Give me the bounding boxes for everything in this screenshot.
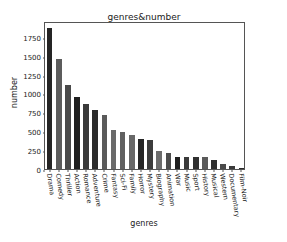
x-tick-label: Crime	[100, 173, 109, 193]
y-tick-label: 1500	[15, 54, 41, 62]
x-tick-mark	[204, 169, 205, 172]
y-tick-label: 250	[15, 148, 41, 156]
x-tick-mark	[122, 169, 123, 172]
y-tick-label: 1750	[15, 35, 41, 43]
y-tick-label: 1000	[15, 91, 41, 99]
y-tick-mark	[43, 38, 46, 39]
bar-horror	[138, 139, 144, 169]
x-tick-mark	[177, 169, 178, 172]
x-tick-mark	[186, 169, 187, 172]
x-tick-label: Sport	[192, 173, 201, 191]
x-tick-label: Drama	[45, 173, 54, 196]
x-tick-mark	[168, 169, 169, 172]
bar-comedy	[56, 59, 62, 169]
bar-crime	[102, 115, 108, 169]
y-tick-label: 1250	[15, 73, 41, 81]
bar-biography	[156, 151, 162, 169]
y-tick-mark	[43, 114, 46, 115]
x-tick-mark	[113, 169, 114, 172]
chart-page: ‍ ‍ ‍ ‍ ‍ genres&number number 025050075…	[0, 0, 287, 242]
bar-adventure	[92, 110, 98, 169]
x-tick-label: Film-Noir	[237, 173, 247, 202]
x-tick-mark	[232, 169, 233, 172]
plot-area: 02505007501000125015001750DramaComedyThr…	[45, 23, 244, 169]
x-tick-mark	[131, 169, 132, 172]
x-tick-mark	[67, 169, 68, 172]
bar-music	[184, 157, 190, 169]
bar-animation	[166, 153, 172, 169]
chart-title: genres&number	[44, 12, 244, 22]
bar-drama	[47, 28, 53, 169]
y-tick-label: 0	[15, 167, 41, 175]
x-tick-label: Sci-Fi	[118, 173, 127, 191]
bar-family	[129, 135, 135, 169]
bar-mystery	[147, 140, 153, 169]
x-tick-mark	[195, 169, 196, 172]
bar-romance	[83, 104, 89, 169]
bar-thriller	[65, 85, 71, 169]
x-tick-label: War	[173, 173, 181, 186]
x-tick-mark	[223, 169, 224, 172]
bar-sci-fi	[120, 132, 126, 169]
y-tick-mark	[43, 171, 46, 172]
bar-war	[175, 157, 181, 169]
y-tick-mark	[43, 76, 46, 77]
x-tick-mark	[76, 169, 77, 172]
x-tick-mark	[159, 169, 160, 172]
bar-sport	[193, 157, 199, 169]
bar-action	[74, 97, 80, 169]
y-tick-label: 500	[15, 129, 41, 137]
y-tick-mark	[43, 57, 46, 58]
x-tick-mark	[95, 169, 96, 172]
x-tick-mark	[86, 169, 87, 172]
x-tick-label: Music	[182, 173, 191, 192]
y-tick-mark	[43, 152, 46, 153]
x-tick-mark	[241, 169, 242, 172]
x-tick-mark	[104, 169, 105, 172]
bar-musical	[211, 160, 217, 169]
x-tick-mark	[49, 169, 50, 172]
plot-axes: 02505007501000125015001750DramaComedyThr…	[44, 22, 245, 170]
x-tick-mark	[150, 169, 151, 172]
bar-history	[202, 157, 208, 169]
x-tick-mark	[58, 169, 59, 172]
y-tick-mark	[43, 133, 46, 134]
x-tick-mark	[214, 169, 215, 172]
matplotlib-figure: genres&number number 0250500750100012501…	[0, 0, 287, 242]
x-axis-label: genres	[44, 219, 244, 228]
y-tick-label: 750	[15, 110, 41, 118]
y-tick-mark	[43, 95, 46, 96]
x-tick-mark	[140, 169, 141, 172]
bar-fantasy	[111, 130, 117, 169]
